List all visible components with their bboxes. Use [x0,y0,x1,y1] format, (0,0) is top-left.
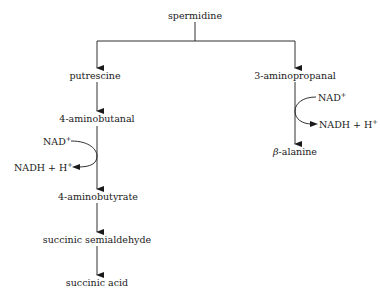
node-beta-alanine: β-alanine [273,146,317,157]
left-cofactor-curve [71,141,97,167]
node-3-aminopropanal: 3-aminopropanal [254,70,336,81]
left-cofactor-out: NADH + H+ [14,162,73,173]
right-cofactor-arrowhead [310,121,318,127]
node-succinic-semialdehyde: succinic semialdehyde [43,234,151,245]
right-cofactor-curve [295,97,316,124]
left-cofactor-arrowhead [72,164,80,170]
node-spermidine: spermidine [168,10,222,21]
right-cofactor-out: NADH + H+ [319,119,378,130]
node-4-aminobutanal: 4-aminobutanal [59,113,134,124]
node-succinic-acid: succinic acid [66,277,128,288]
node-putrescine: putrescine [69,70,120,81]
right-cofactor-in: NAD+ [318,92,346,103]
pathway-arrows [0,0,380,297]
left-cofactor-in: NAD+ [43,136,71,147]
node-4-aminobutyrate: 4-aminobutyrate [58,191,138,202]
